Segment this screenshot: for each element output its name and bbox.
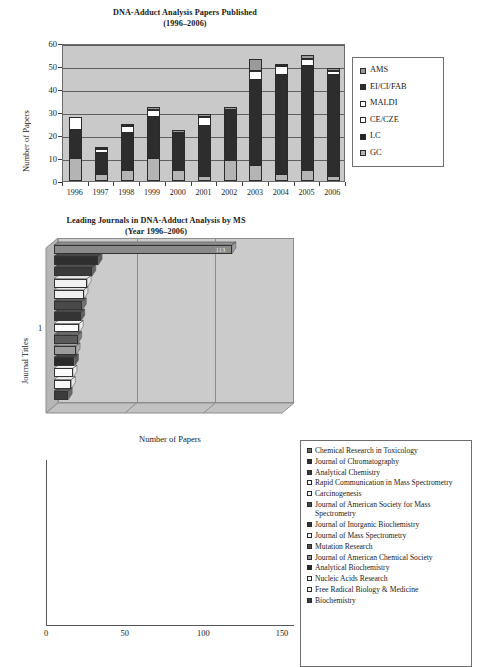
top-chart-bar-segment: [327, 75, 340, 176]
bottom-chart-bar: [54, 245, 232, 254]
top-chart-bar-segment: [275, 66, 288, 75]
bottom-chart-legend: Chemical Research in ToxicologyJournal o…: [300, 440, 472, 667]
top-chart-bar-segment: [327, 71, 340, 76]
top-chart-bar-segment: [327, 68, 340, 70]
bottom-chart-bar: [54, 279, 87, 288]
bottom-chart-title-line2: (Year 1996–2006): [16, 227, 296, 238]
legend-swatch-icon: [360, 117, 366, 123]
bottom-chart-legend-label: Nucleic Acids Research: [315, 574, 388, 583]
top-chart-bar-segment: [249, 71, 262, 80]
top-chart-x-tickmark: [345, 182, 346, 186]
bottom-chart-title-line1: Leading Journals in DNA-Adduct Analysis …: [66, 216, 245, 225]
bottom-chart-bar: [54, 301, 82, 310]
top-chart-legend-label: GC: [370, 148, 382, 158]
top-chart-bar: [249, 59, 262, 181]
legend-swatch-icon: [307, 459, 312, 464]
bottom-chart-x-axis-line: [46, 625, 294, 626]
top-chart-legend-label: CE/CZE: [370, 115, 399, 125]
bottom-chart-legend-item-5: Journal of American Society for Mass Spe…: [307, 500, 466, 519]
top-chart-y-tickmark: [58, 159, 62, 160]
bottom-chart-bar-value-label: 113: [216, 246, 226, 253]
bottom-chart-x-axis-label: Number of Papers: [46, 434, 294, 444]
legend-swatch-icon: [307, 502, 312, 507]
top-chart-bar: [198, 114, 211, 181]
bottom-chart-legend-item-11: Nucleic Acids Research: [307, 574, 466, 583]
top-chart-legend-item-1: EI/CI/FAB: [360, 82, 443, 92]
bottom-chart-bar: [54, 380, 71, 389]
top-chart-bar-segment: [147, 117, 160, 158]
top-chart-bar-segment: [121, 124, 134, 126]
bottom-chart-legend-item-9: Journal of American Chemical Society: [307, 553, 466, 562]
top-chart-y-tick: 40: [35, 85, 57, 95]
bottom-chart-bar: [54, 335, 78, 344]
bottom-chart-bar: [54, 290, 84, 299]
legend-swatch-icon: [307, 522, 312, 527]
legend-swatch-icon: [307, 576, 312, 581]
bottom-chart-legend-label: Journal of Inorganic Biochemistry: [315, 520, 419, 529]
top-chart-bar-segment: [172, 130, 185, 132]
bottom-chart-legend-item-13: Biochemistry: [307, 596, 466, 605]
bottom-chart-bar: [54, 368, 73, 377]
top-chart-bar-segment: [95, 147, 108, 149]
legend-swatch-icon: [360, 134, 366, 140]
top-chart-bar-segment: [147, 107, 160, 109]
bottom-chart-legend-label: Journal of American Society for Mass Spe…: [315, 500, 466, 519]
top-chart-bar-segment: [224, 107, 237, 109]
top-chart-bar-segment: [172, 170, 185, 182]
top-chart-legend-item-2: MALDI: [360, 98, 443, 108]
top-chart-x-tickmark: [165, 182, 166, 186]
bottom-chart-bar: [54, 324, 79, 333]
top-chart-bar-segment: [121, 170, 134, 182]
top-chart-y-tick: 10: [35, 154, 57, 164]
top-chart-bar-segment: [198, 114, 211, 116]
top-chart-legend: AMSEI/CI/FABMALDICE/CZELCGC: [352, 57, 444, 167]
top-chart-bar-segment: [95, 174, 108, 181]
top-chart-bar: [147, 107, 160, 181]
top-chart-legend-label: EI/CI/FAB: [370, 82, 407, 92]
top-chart-legend-item-0: AMS: [360, 65, 443, 75]
top-chart-bar-segment: [224, 160, 237, 181]
top-chart-bar-segment: [198, 176, 211, 181]
top-chart-bar-segment: [301, 59, 314, 66]
top-chart-bar-segment: [301, 170, 314, 182]
bottom-chart-legend-label: Mutation Research: [315, 542, 373, 551]
top-chart-bar-segment: [275, 64, 288, 66]
bottom-chart-legend-item-6: Journal of Inorganic Biochemistry: [307, 520, 466, 529]
bottom-chart-bar: [54, 267, 92, 276]
legend-swatch-icon: [307, 544, 312, 549]
bottom-chart-bar: [54, 391, 68, 400]
top-chart-bar-segment: [198, 126, 211, 177]
top-chart-bar-segment: [69, 117, 82, 131]
top-chart-bar-segment: [121, 133, 134, 170]
bottom-chart-legend-item-10: Analytical Biochemistry: [307, 563, 466, 572]
legend-swatch-icon: [307, 480, 312, 485]
top-chart-plot-area: [62, 44, 345, 182]
top-chart-x-tickmark: [216, 182, 217, 186]
legend-swatch-icon: [360, 68, 366, 74]
top-chart-bar: [327, 68, 340, 181]
bottom-chart-legend-item-3: Rapid Communication in Mass Spectrometry: [307, 478, 466, 487]
top-chart-bar-segment: [69, 130, 82, 158]
bottom-chart-legend-label: Analytical Biochemistry: [315, 563, 389, 572]
legend-swatch-icon: [360, 84, 366, 90]
bottom-chart-legend-label: Carcinogenesis: [315, 489, 361, 498]
top-chart-x-tickmark: [88, 182, 89, 186]
legend-swatch-icon: [307, 587, 312, 592]
bottom-chart-x-tick: 150: [266, 629, 298, 638]
top-chart-bar: [301, 55, 314, 182]
top-chart-bar-segment: [275, 75, 288, 174]
bottom-chart-legend-label: Biochemistry: [315, 596, 356, 605]
bottom-chart-legend-item-2: Analytical Chemistry: [307, 468, 466, 477]
bottom-chart-legend-item-4: Carcinogenesis: [307, 489, 466, 498]
bottom-chart-gridline: [215, 238, 216, 403]
bottom-chart-title: Leading Journals in DNA-Adduct Analysis …: [16, 216, 296, 237]
top-chart-bar: [275, 64, 288, 181]
bottom-chart-legend-label: Journal of American Chemical Society: [315, 553, 433, 562]
bottom-chart-legend-item-0: Chemical Research in Toxicology: [307, 446, 466, 455]
top-chart-bar-segment: [301, 66, 314, 170]
top-chart-y-tick: 30: [35, 108, 57, 118]
legend-swatch-icon: [307, 565, 312, 570]
top-chart-bar-segment: [121, 126, 134, 133]
bottom-chart-y-tick-1: 1: [38, 324, 42, 333]
top-chart-bar-segment: [327, 176, 340, 181]
